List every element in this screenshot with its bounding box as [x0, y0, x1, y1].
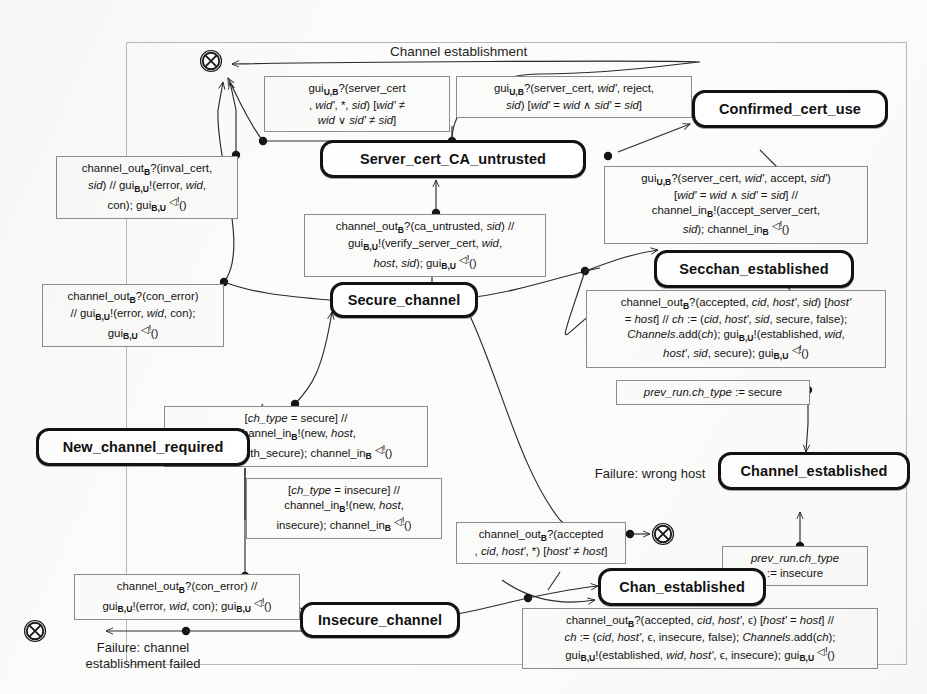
state-insecure-channel[interactable]: Insecure_channel	[300, 602, 460, 638]
state-new-channel-required[interactable]: New_channel_required	[36, 428, 250, 466]
transition-label-accepted-wrong-host: channel_outB?(accepted, cid, host', *) […	[456, 522, 626, 564]
transition-label-prev-run-secure: prev_run.ch_type := secure	[616, 380, 810, 405]
transition-label-accepted-secure: channel_outB?(accepted, cid, host', sid)…	[586, 290, 886, 368]
state-channel-established[interactable]: Channel_established	[718, 452, 910, 490]
state-chan-established[interactable]: Chan_established	[598, 568, 766, 606]
transition-label-gui-accept: guiU,B?(server_cert, wid', accept, sid')…	[604, 166, 868, 244]
transition-label-con-error-insecure: channel_outB?(con_error) //guiB,U!(error…	[74, 574, 300, 620]
state-diagram-canvas: Channel establishment	[0, 0, 927, 694]
frame-title: Channel establishment	[390, 44, 527, 59]
terminate-pseudostate-top	[198, 48, 220, 70]
transition-label-ca-untrusted: channel_outB?(ca_untrusted, sid) //guiB,…	[304, 214, 546, 277]
terminate-pseudostate-failed	[22, 618, 44, 640]
terminate-pseudostate-wrong-host	[650, 521, 672, 543]
state-confirmed-cert-use[interactable]: Confirmed_cert_use	[692, 90, 888, 128]
transition-label-gui-reject: guiU,B?(server_cert, wid', reject,sid) […	[456, 76, 692, 118]
transition-label-gui-wrong-wid-sid: guiU,B?(server_cert, wid', *, sid) [wid'…	[264, 76, 450, 132]
state-secure-channel[interactable]: Secure_channel	[330, 282, 478, 318]
caption-failure-wrong-host: Failure: wrong host	[590, 466, 710, 482]
transition-label-ch-type-insecure: [ch_type = insecure] //channel_inB!(new,…	[246, 478, 442, 539]
transition-label-inval-cert: channel_outB?(inval_cert,sid) // guiB,U!…	[56, 156, 238, 219]
state-server-cert-ca-untrusted[interactable]: Server_cert_CA_untrusted	[320, 140, 586, 178]
caption-failure-channel-establishment-failed: Failure: channel establishment failed	[58, 640, 228, 672]
state-secchan-established[interactable]: Secchan_established	[654, 250, 854, 288]
transition-label-accepted-insecure: channel_outB?(accepted, cid, host', ϵ) […	[522, 608, 878, 669]
transition-label-con-error-secure: channel_outB?(con_error)// guiB,U!(error…	[42, 284, 224, 347]
